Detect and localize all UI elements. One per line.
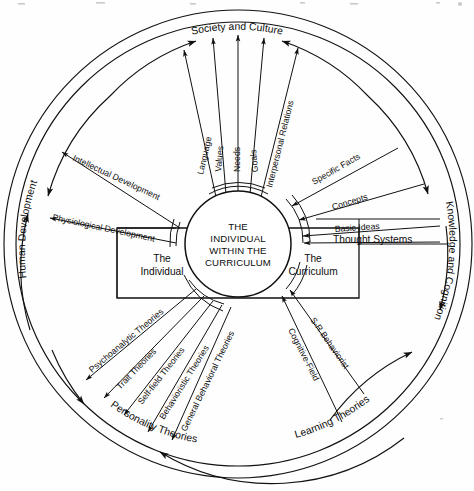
curriculum-box-line-1: The bbox=[304, 253, 322, 264]
spoke-label-concepts: Concepts bbox=[331, 191, 370, 211]
spoke-label-thought-systems: Thought Systems bbox=[333, 234, 412, 245]
spoke-label-goals: Goals bbox=[248, 149, 260, 173]
diagram-canvas: THE INDIVIDUAL WITHIN THE CURRICULUM The… bbox=[0, 0, 474, 491]
spoke-labels-human-development: Intellectual Development Physiological D… bbox=[52, 153, 163, 244]
spoke-label-language: Language bbox=[195, 135, 213, 175]
spoke-label-cognitive-field: Cognitive-Field bbox=[286, 326, 321, 382]
curriculum-box-label: The Curriculum bbox=[288, 253, 337, 277]
spoke-label-intellectual-development: Intellectual Development bbox=[71, 153, 162, 203]
center-line-3: WITHIN THE bbox=[209, 245, 266, 256]
center-line-1: THE bbox=[228, 221, 248, 232]
spoke-labels-knowledge-and-cognition: Specific Facts Concepts Basic Ideas Thou… bbox=[310, 151, 412, 245]
spoke-label-interpersonal-relations: Interpersonal Relations bbox=[264, 99, 295, 189]
arc-label-society-and-culture: Society and Culture bbox=[190, 21, 284, 37]
spoke-label-s-r-behaviorist: S-R Behaviorist bbox=[308, 315, 351, 371]
radial-diagram: THE INDIVIDUAL WITHIN THE CURRICULUM The… bbox=[0, 0, 474, 491]
center-circle: THE INDIVIDUAL WITHIN THE CURRICULUM bbox=[185, 191, 291, 297]
arc-label-learning-theories: Learning Theories bbox=[293, 393, 371, 440]
individual-box-line-2: Individual bbox=[140, 266, 183, 277]
individual-box-line-1: The bbox=[153, 253, 171, 264]
spoke-label-psychoanalytic-theories: Psychoanalytic Theories bbox=[87, 306, 166, 375]
curriculum-box-line-2: Curriculum bbox=[288, 266, 337, 277]
center-line-2: INDIVIDUAL bbox=[210, 233, 266, 244]
individual-box-label: The Individual bbox=[140, 253, 183, 277]
spoke-label-needs: Needs bbox=[232, 146, 242, 172]
spokes-learning-theories bbox=[282, 290, 364, 422]
center-line-4: CURRICULUM bbox=[205, 257, 271, 268]
spoke-label-basic-ideas: Basic Ideas bbox=[334, 221, 380, 234]
spoke-labels-personality-theories: Psychoanalytic Theories Trait Theories S… bbox=[87, 306, 237, 433]
arc-label-human-development: Human Development bbox=[16, 179, 39, 279]
spoke-labels-society-and-culture: Language Values Needs Goals Interpersona… bbox=[195, 99, 296, 189]
